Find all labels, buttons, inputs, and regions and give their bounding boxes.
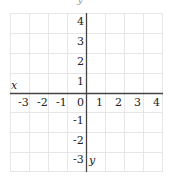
- x-tick-neg1: -1: [56, 97, 67, 109]
- x-tick-neg2: -2: [37, 97, 48, 109]
- y-tick-1: 1: [77, 76, 84, 88]
- x-axis-label: x: [11, 80, 17, 92]
- x-tick-neg3: -3: [18, 97, 29, 109]
- y-tick-neg3: -3: [73, 154, 84, 166]
- y-tick-2: 2: [77, 56, 84, 68]
- y-axis-label: y: [89, 155, 95, 167]
- y-tick-3: 3: [77, 36, 84, 48]
- x-tick-1: 1: [96, 97, 103, 109]
- x-tick-4: 4: [153, 97, 160, 109]
- y-tick-neg2: -2: [73, 135, 84, 147]
- x-tick-3: 3: [134, 97, 141, 109]
- partial-top-label: y: [77, 0, 83, 6]
- x-tick-0: 0: [77, 97, 84, 109]
- y-tick-4: 4: [77, 16, 84, 28]
- x-tick-2: 2: [115, 97, 122, 109]
- y-tick-neg1: -1: [73, 115, 84, 127]
- coordinate-grid: [0, 0, 169, 179]
